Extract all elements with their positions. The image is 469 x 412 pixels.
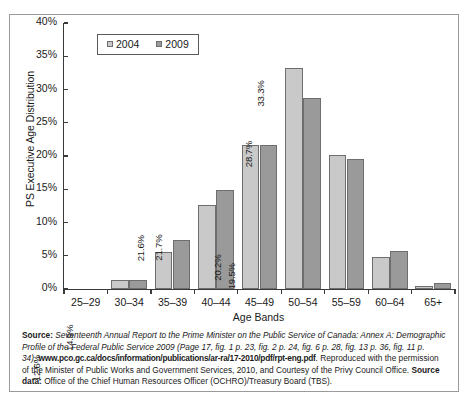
y-axis-tick-mark <box>64 222 68 223</box>
bar-2004-30–34 <box>111 280 129 289</box>
y-axis-tick-label: 10% <box>36 215 57 227</box>
y-axis-tick-label: 5% <box>42 248 57 260</box>
bar-chart: PS Executive Age Distribution 0%5%10%15%… <box>10 15 458 327</box>
bar-2009-65+ <box>434 283 452 289</box>
x-axis-label: Age Bands <box>63 311 454 323</box>
figure-panel: PS Executive Age Distribution 0%5%10%15%… <box>9 14 459 392</box>
y-axis-tick-label: 30% <box>36 82 57 94</box>
caption-source-label: Source: <box>22 330 53 340</box>
y-axis-tick-label: 15% <box>36 181 57 193</box>
bar-value-label: 33.3% <box>257 80 299 106</box>
x-axis-tick-mark <box>411 289 412 294</box>
x-axis-tick-mark <box>107 289 108 294</box>
x-axis-tick-label: 25–29 <box>64 296 107 308</box>
x-axis-tick-mark <box>194 289 195 294</box>
y-axis-tick-mark <box>64 122 68 123</box>
bar-2009-30–34 <box>129 280 147 289</box>
x-axis-tick-mark <box>63 289 64 294</box>
legend-item-2004: 2004 <box>107 38 139 50</box>
plot-area: 0%5%10%15%20%25%30%35%40%25–290.0%0.0%30… <box>63 23 455 290</box>
y-axis-label: PS Executive Age Distribution <box>24 39 36 239</box>
x-axis-tick-label: 45–49 <box>238 296 281 308</box>
chart-legend: 2004 2009 <box>97 34 199 55</box>
y-axis-tick-mark <box>64 255 68 256</box>
y-axis-tick-label: 35% <box>36 48 57 60</box>
x-axis-tick-mark <box>368 289 369 294</box>
y-axis-tick-mark <box>64 155 68 156</box>
x-axis-tick-label: 60–64 <box>368 296 411 308</box>
x-axis-tick-mark <box>454 289 455 294</box>
bar-value-label: 28.7% <box>244 141 316 167</box>
y-axis-tick-mark <box>64 189 68 190</box>
bar-2004-65+ <box>415 286 433 289</box>
x-axis-tick-label: 55–59 <box>325 296 368 308</box>
caption-source-data-text: Office of the Chief Human Resources Offi… <box>44 376 332 386</box>
y-axis-tick-mark <box>64 22 68 23</box>
legend-label-2004: 2004 <box>116 38 139 50</box>
legend-swatch-icon-2004 <box>107 41 113 47</box>
bar-2004-60–64 <box>372 257 390 289</box>
x-axis-tick-label: 65+ <box>412 296 455 308</box>
legend-label-2009: 2009 <box>165 38 188 50</box>
y-axis-tick-mark <box>64 56 68 57</box>
x-axis-tick-mark <box>150 289 151 294</box>
x-axis-tick-mark <box>324 289 325 294</box>
x-axis-tick-label: 40–44 <box>194 296 237 308</box>
y-axis-tick-label: 40% <box>36 15 57 27</box>
x-axis-tick-mark <box>281 289 282 294</box>
x-axis-tick-label: 35–39 <box>151 296 194 308</box>
y-axis-tick-mark <box>64 89 68 90</box>
caption-url[interactable]: www.pco.gc.ca/docs/information/publicati… <box>39 353 316 363</box>
x-axis-tick-label: 30–34 <box>107 296 150 308</box>
y-axis-tick-label: 20% <box>36 148 57 160</box>
y-axis-tick-label: 25% <box>36 115 57 127</box>
legend-swatch-icon-2009 <box>156 41 162 47</box>
bar-value-label: 19.5% <box>226 263 359 289</box>
x-axis-tick-mark <box>237 289 238 294</box>
x-axis-tick-label: 50–54 <box>281 296 324 308</box>
legend-item-2009: 2009 <box>156 38 188 50</box>
y-axis-tick-label: 0% <box>42 281 57 293</box>
bar-2009-60–64 <box>390 251 408 289</box>
figure-caption: Source: Seventeenth Annual Report to the… <box>10 327 458 388</box>
